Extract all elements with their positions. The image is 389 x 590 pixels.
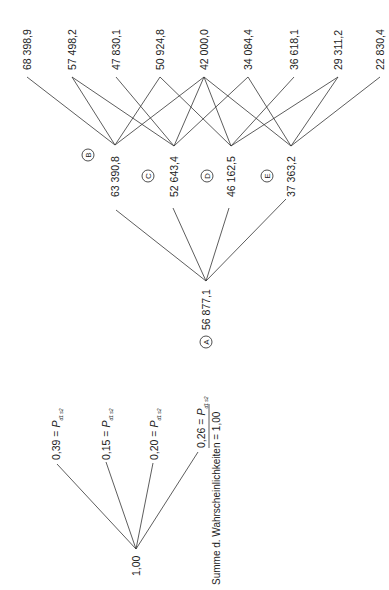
leaf-value: 29 311,2 (332, 30, 344, 70)
node-e-value: 37 363,2 (285, 156, 297, 197)
leaf-value: 36 618,1 (288, 29, 300, 70)
node-b-letter: B (84, 152, 93, 157)
node-b-marker: B (82, 149, 94, 161)
node-b-value: 63 390,8 (109, 156, 121, 197)
node-c-value: 52 643,4 (168, 156, 180, 197)
node-e-marker: E (261, 170, 273, 182)
svg-text:0,39 = Pd1 s2: 0,39 = Pd1 s2 (50, 408, 64, 460)
svg-text:0,20 = Pd1 s2: 0,20 = Pd1 s2 (148, 408, 162, 460)
node-d-letter: D (203, 173, 212, 179)
svg-text:0,15 = Pd1 s2: 0,15 = Pd1 s2 (100, 408, 114, 460)
leaf-value: 42 000,0 (198, 29, 210, 70)
leaf-value: 68 398,9 (21, 29, 33, 70)
sum-note: Summe d. Wahrscheinlichkeiten = 1,00 (211, 411, 222, 585)
decision-tree-diagram: 68 398,9 57 498,2 47 830,1 50 924,8 42 0… (0, 0, 389, 590)
probability-value: 0,20 (148, 439, 160, 460)
node-d-value: 46 162,5 (225, 156, 237, 197)
svg-text:0,26 = Pd1 s2: 0,26 = Pd1 s2 (195, 396, 209, 448)
root-edges (57, 452, 198, 549)
probability-value: 0,26 (195, 427, 207, 448)
probability-labels: 0,39 = Pd1 s2 0,15 = Pd1 s2 0,20 = Pd1 s… (50, 396, 209, 460)
leaf-value: 50 924,8 (154, 29, 166, 70)
node-a: 56 877,1 A (200, 289, 212, 348)
probability-label: 0,26 = Pd1 s2 (195, 396, 209, 448)
probability-label: 0,39 = Pd1 s2 (50, 408, 64, 460)
node-a-value: 56 877,1 (200, 289, 212, 330)
node-c-letter: C (144, 173, 153, 179)
node-e-letter: E (263, 173, 272, 178)
node-a-letter: A (202, 339, 211, 345)
probability-symbol: P (50, 421, 62, 428)
node-c-marker: C (142, 170, 154, 182)
root-value: 1,00 (130, 555, 142, 576)
probability-label: 0,15 = Pd1 s2 (100, 408, 114, 460)
probability-symbol: P (100, 421, 112, 428)
node-a-edges (116, 199, 286, 281)
node-d-marker: D (201, 170, 213, 182)
probability-subscript: d1 s2 (203, 396, 209, 408)
probability-subscript: d1 s2 (156, 408, 162, 420)
probability-symbol: P (148, 421, 160, 428)
probability-value: 0,39 (50, 439, 62, 460)
leaf-value: 47 830,1 (110, 29, 122, 70)
probability-symbol: P (195, 409, 207, 416)
probability-value: 0,15 (100, 439, 112, 460)
probability-subscript: d1 s2 (58, 408, 64, 420)
leaf-edges (27, 77, 380, 146)
probability-subscript: d1 s2 (108, 408, 114, 420)
leaf-value: 34 084,4 (242, 29, 254, 70)
probability-label: 0,20 = Pd1 s2 (148, 408, 162, 460)
leaf-value: 22 830,4 (374, 29, 386, 70)
leaf-labels: 68 398,9 57 498,2 47 830,1 50 924,8 42 0… (21, 29, 386, 70)
leaf-value: 57 498,2 (66, 29, 78, 70)
